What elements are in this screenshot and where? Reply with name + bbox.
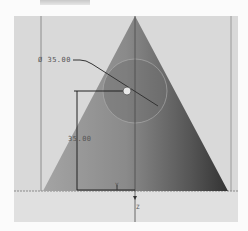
z-axis-arrow-icon — [133, 196, 137, 200]
z-axis-label: Z — [136, 203, 140, 210]
center-point-marker[interactable] — [123, 87, 131, 95]
height-dimension-label[interactable]: 35.00 — [68, 135, 92, 143]
y-axis-label: Y — [115, 181, 119, 188]
cad-scene — [0, 0, 248, 231]
diameter-dimension-label[interactable]: Ø 35.00 — [38, 56, 71, 64]
